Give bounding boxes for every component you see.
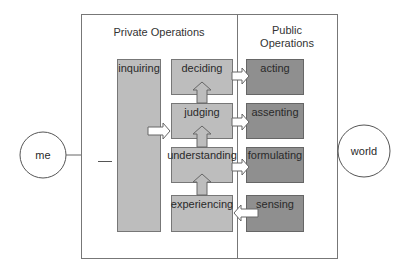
world-label: world bbox=[350, 145, 377, 157]
judging-label: judging bbox=[183, 106, 219, 118]
formulating-label: formulating bbox=[248, 149, 302, 161]
acting-label: acting bbox=[260, 62, 289, 74]
assenting-label: assenting bbox=[251, 106, 298, 118]
public-operations-header-line1: Public bbox=[272, 24, 302, 36]
experiencing-label: experiencing bbox=[171, 198, 233, 210]
inquiring-box bbox=[118, 60, 161, 232]
deciding-label: deciding bbox=[182, 62, 223, 74]
public-operations-header-line2: Operations bbox=[260, 37, 314, 49]
operations-diagram: Private Operations Public Operations me … bbox=[0, 0, 412, 269]
me-label: me bbox=[35, 149, 50, 161]
private-operations-header: Private Operations bbox=[113, 26, 205, 38]
sensing-label: sensing bbox=[256, 198, 294, 210]
understanding-label: understanding bbox=[167, 149, 237, 161]
inquiring-label: inquiring bbox=[118, 62, 160, 74]
